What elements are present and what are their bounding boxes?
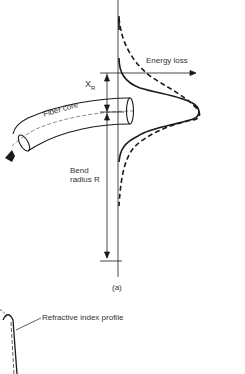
refractive-profile-solid: [3, 315, 17, 374]
fiber-end-left: [16, 133, 32, 153]
energy-loss-arrowhead: [190, 71, 196, 76]
xr-arrow-mid1: [105, 105, 110, 111]
xr-label-sub: R: [91, 85, 95, 91]
bent-fiber-bottom-edge: [28, 124, 130, 151]
bent-fiber-centerline: [12, 111, 134, 146]
bend-label-line2: radius R: [70, 175, 110, 184]
bend-radius-label: Bend radius R: [70, 166, 110, 184]
propagation-arrow: [5, 150, 15, 162]
xr-arrow-top: [105, 75, 110, 81]
dashed-field-curve: [119, 18, 200, 206]
bend-label-line1: Bend: [70, 166, 110, 175]
refractive-index-profile-label: Refractive index profile: [42, 313, 123, 322]
solid-field-curve: [119, 58, 199, 162]
panel-label: (a): [112, 283, 122, 292]
xr-label: XR: [85, 80, 95, 93]
xr-arrow-mid2: [105, 114, 110, 120]
refractive-label-leader: [16, 318, 41, 330]
energy-loss-label: Energy loss: [146, 56, 188, 65]
bend-radius-arrowhead: [105, 252, 110, 258]
